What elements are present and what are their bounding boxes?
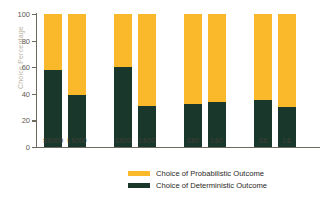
- y-tick-mark: [32, 41, 37, 42]
- bar-segment-deterministic: [114, 67, 132, 147]
- bar-s60[interactable]: [184, 14, 202, 147]
- y-tick-mark: [32, 67, 37, 68]
- bar-l600[interactable]: [138, 14, 156, 147]
- bar-l6[interactable]: [278, 14, 296, 147]
- legend-item: Choice of Deterministic Outcome: [128, 179, 267, 191]
- bar-segment-deterministic: [44, 70, 62, 147]
- chart-legend: Choice of Probabilistic Outcome Choice o…: [128, 167, 267, 191]
- y-tick-label: 100: [2, 10, 30, 19]
- x-axis-label-l6000: L6000: [60, 137, 94, 144]
- bar-l60[interactable]: [208, 14, 226, 147]
- y-tick-label: 20: [2, 116, 30, 125]
- legend-label-probabilistic: Choice of Probabilistic Outcome: [156, 169, 264, 178]
- y-tick-label: 80: [2, 37, 30, 46]
- x-axis-label-l600: L600: [130, 137, 164, 144]
- bar-s6000[interactable]: [44, 14, 62, 147]
- y-tick-label: 0: [2, 143, 30, 152]
- legend-swatch-probabilistic: [128, 171, 150, 176]
- legend-item: Choice of Probabilistic Outcome: [128, 167, 267, 179]
- bar-s600[interactable]: [114, 14, 132, 147]
- legend-label-deterministic: Choice of Deterministic Outcome: [156, 181, 267, 190]
- y-tick-label: 60: [2, 63, 30, 72]
- y-tick-mark: [32, 14, 37, 15]
- x-axis-label-l6: L6: [270, 137, 304, 144]
- x-axis-label-l60: L60: [200, 137, 234, 144]
- bar-s6[interactable]: [254, 14, 272, 147]
- y-tick-mark: [32, 120, 37, 121]
- y-axis-line: [36, 13, 37, 148]
- legend-swatch-deterministic: [128, 183, 150, 188]
- y-tick-mark: [32, 94, 37, 95]
- bar-l6000[interactable]: [68, 14, 86, 147]
- plot-area: 020406080100: [36, 14, 320, 147]
- y-tick-mark: [32, 147, 37, 148]
- stacked-bar-chart: Choice Percentage 020406080100 S6000L600…: [0, 0, 324, 202]
- y-tick-label: 40: [2, 90, 30, 99]
